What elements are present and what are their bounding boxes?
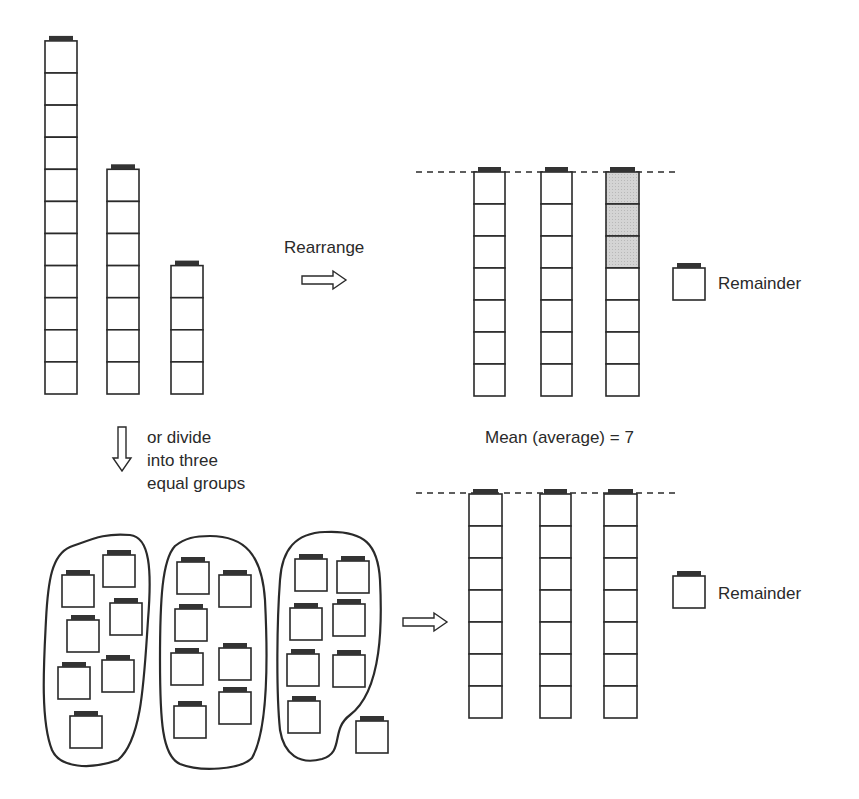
- mean-diagram: [0, 0, 859, 799]
- remainder-label-top: Remainder: [718, 273, 801, 295]
- divide-label-line3: equal groups: [147, 473, 245, 495]
- divide-label-line1: or divide: [147, 427, 211, 449]
- tower-7-cubes: [107, 164, 139, 394]
- group-tower-1: [469, 489, 502, 718]
- group-tower-3: [604, 489, 637, 718]
- rearrange-arrow-icon: [302, 271, 346, 289]
- grouped-cubes: [58, 550, 388, 753]
- tower-4-cubes: [171, 261, 203, 394]
- divide-arrow-icon: [113, 427, 131, 471]
- remainder-cube-top: [673, 263, 705, 300]
- rearrange-label: Rearrange: [284, 237, 364, 259]
- remainder-cube-bottom: [673, 571, 705, 608]
- mean-label: Mean (average) = 7: [485, 427, 634, 449]
- tower-11-cubes: [45, 36, 77, 394]
- rearranged-tower-2: [541, 167, 572, 396]
- rearranged-tower-3: [606, 167, 639, 396]
- divide-label-line2: into three: [147, 450, 218, 472]
- remainder-label-bottom: Remainder: [718, 583, 801, 605]
- group-tower-2: [540, 489, 571, 718]
- combine-arrow-icon: [403, 613, 447, 631]
- rearranged-tower-1: [474, 167, 505, 396]
